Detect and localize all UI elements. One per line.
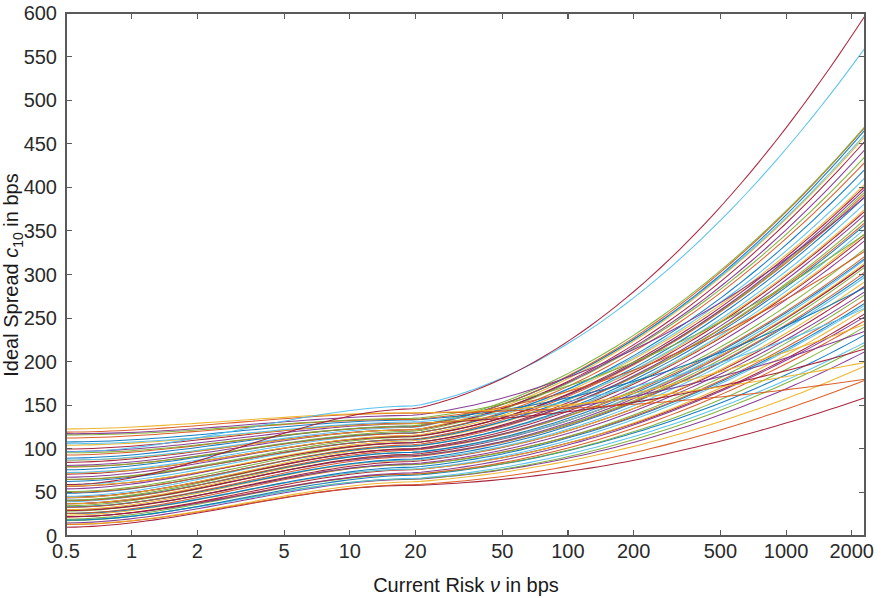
y-tick-label: 200 — [24, 351, 57, 373]
y-tick-label: 100 — [24, 438, 57, 460]
y-tick-label: 150 — [24, 394, 57, 416]
y-tick-label: 600 — [24, 2, 57, 24]
x-tick-label: 2000 — [830, 540, 875, 562]
y-axis-title: Ideal Spread c10 in bps — [0, 173, 26, 377]
data-line — [66, 178, 865, 473]
line-chart-plot: 0.512510205010020050010002000 0501001502… — [0, 0, 887, 598]
y-tick-label: 250 — [24, 307, 57, 329]
x-tick-label: 10 — [339, 540, 361, 562]
x-tick-label: 1000 — [764, 540, 809, 562]
y-tick-label: 50 — [35, 481, 57, 503]
x-axis-title: Current Risk ν in bps — [373, 574, 559, 596]
x-axis-tick-labels: 0.512510205010020050010002000 — [52, 540, 874, 562]
data-lines-group — [66, 16, 865, 528]
y-tick-label: 0 — [46, 525, 57, 547]
data-line — [66, 234, 865, 435]
x-tick-label: 200 — [617, 540, 650, 562]
y-tick-label: 300 — [24, 264, 57, 286]
x-tick-label: 500 — [704, 540, 737, 562]
y-tick-label: 400 — [24, 176, 57, 198]
chart-figure: 0.512510205010020050010002000 0501001502… — [0, 0, 887, 598]
x-tick-label: 100 — [551, 540, 584, 562]
x-tick-label: 1 — [126, 540, 137, 562]
x-tick-label: 5 — [279, 540, 290, 562]
data-line — [66, 194, 865, 479]
y-axis-tick-labels: 050100150200250300350400450500550600 — [24, 2, 57, 547]
y-tick-label: 500 — [24, 89, 57, 111]
x-tick-label: 2 — [192, 540, 203, 562]
x-tick-label: 20 — [404, 540, 426, 562]
y-tick-label: 450 — [24, 133, 57, 155]
y-tick-label: 550 — [24, 46, 57, 68]
x-tick-label: 50 — [491, 540, 513, 562]
y-tick-label: 350 — [24, 220, 57, 242]
